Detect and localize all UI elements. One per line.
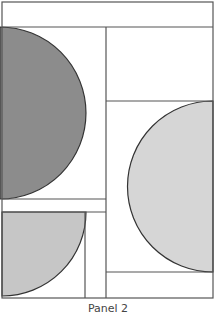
quarter-circle xyxy=(2,212,86,296)
panel-figure xyxy=(0,0,216,300)
light-half-circle xyxy=(128,101,214,272)
dark-half-circle xyxy=(0,27,86,199)
panel-caption: Panel 2 xyxy=(0,302,216,315)
